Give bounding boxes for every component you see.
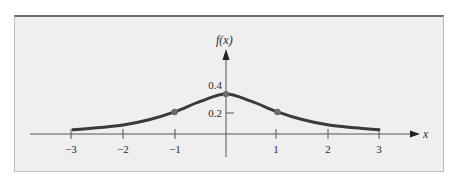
x-axis-label: x (422, 127, 429, 141)
x-tick-label: 2 (325, 143, 331, 155)
x-tick-label: −3 (65, 143, 77, 155)
y-tick-label: 0.2 (208, 107, 222, 119)
y-tick-label: 0.4 (208, 79, 222, 91)
data-point (274, 109, 280, 115)
x-tick-label: 3 (376, 143, 382, 155)
chart-svg: x f(x) −3 −2 −1 1 2 3 0.2 0.4 (0, 0, 453, 182)
x-tick-label: −1 (169, 143, 181, 155)
x-tick-label: −2 (117, 143, 129, 155)
y-axis-arrow-icon (223, 49, 230, 60)
data-point (223, 91, 229, 97)
y-axis-label: f(x) (216, 33, 233, 47)
x-axis-arrow-icon (410, 131, 420, 138)
x-tick-label: 1 (273, 143, 279, 155)
data-point (171, 109, 177, 115)
